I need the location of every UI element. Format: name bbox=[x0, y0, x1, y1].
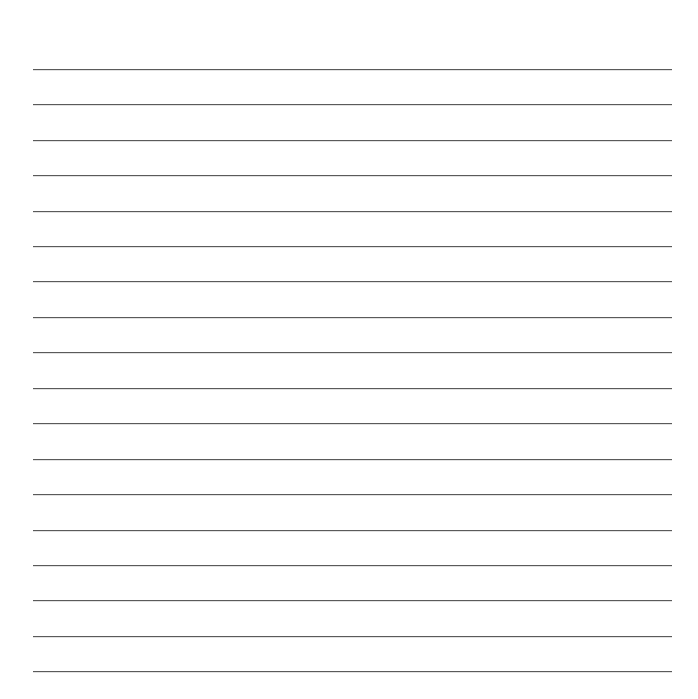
ruled-line bbox=[33, 317, 672, 318]
ruled-line bbox=[33, 565, 672, 566]
ruled-line bbox=[33, 494, 672, 495]
lined-paper-page bbox=[0, 0, 698, 699]
ruled-line bbox=[33, 530, 672, 531]
ruled-line bbox=[33, 281, 672, 282]
ruled-line bbox=[33, 211, 672, 212]
ruled-line bbox=[33, 423, 672, 424]
ruled-line bbox=[33, 175, 672, 176]
ruled-line bbox=[33, 104, 672, 105]
ruled-line bbox=[33, 600, 672, 601]
ruled-line bbox=[33, 69, 672, 70]
ruled-line bbox=[33, 140, 672, 141]
ruled-line bbox=[33, 636, 672, 637]
ruled-line bbox=[33, 352, 672, 353]
ruled-line bbox=[33, 671, 672, 672]
ruled-line bbox=[33, 388, 672, 389]
ruled-line bbox=[33, 459, 672, 460]
ruled-line bbox=[33, 246, 672, 247]
